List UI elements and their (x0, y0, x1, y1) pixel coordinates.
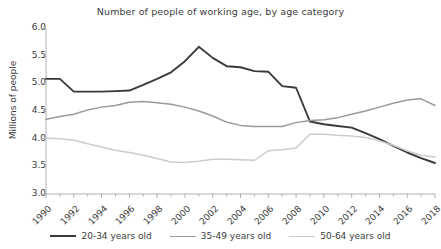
legend-item[interactable]: 50-64 years old (289, 231, 390, 241)
legend-label: 35-49 years old (201, 231, 271, 241)
line-chart: Number of people of working age, by age … (0, 0, 441, 249)
legend-swatch (170, 236, 196, 237)
legend-swatch (289, 236, 315, 237)
legend-label: 20-34 years old (81, 231, 151, 241)
x-axis-tick-labels: 1990199219941996199820002002200420062008… (0, 0, 441, 249)
legend-item[interactable]: 20-34 years old (50, 231, 151, 241)
chart-legend: 20-34 years old35-49 years old50-64 year… (0, 228, 441, 244)
legend-label: 50-64 years old (320, 231, 390, 241)
legend-swatch (50, 235, 76, 237)
legend-item[interactable]: 35-49 years old (170, 231, 271, 241)
